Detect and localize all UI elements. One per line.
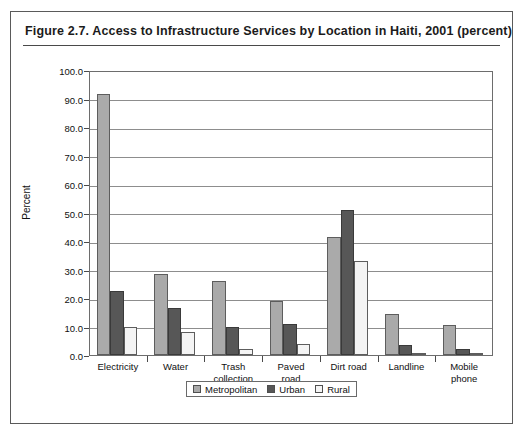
y-axis-tick-label: 30.0 [49,265,83,276]
bar-rural-electricity [124,327,138,356]
figure-frame: Figure 2.7. Access to Infrastructure Ser… [10,11,513,424]
bar-metropolitan-electricity [97,94,111,355]
y-axis-tick-label: 80.0 [49,123,83,134]
gridline [90,271,492,272]
y-axis-tick-mark [84,271,89,272]
legend-swatch-icon [267,385,275,393]
y-axis-tick-label: 60.0 [49,180,83,191]
x-axis-category-label: Mobile phone [427,361,501,385]
bar-metropolitan-trash-collection [212,281,226,355]
y-axis-tick-mark [84,328,89,329]
bar-metropolitan-water [154,274,168,355]
y-axis-tick-label: 90.0 [49,94,83,105]
legend-label: Metropolitan [205,384,257,395]
bar-urban-electricity [110,291,124,355]
bar-metropolitan-landline [385,314,399,355]
y-axis-tick-mark [84,157,89,158]
bar-urban-dirt-road [341,210,355,355]
y-axis-tick-label: 100.0 [49,66,83,77]
y-axis-tick-mark [84,185,89,186]
legend-label: Rural [327,384,350,395]
bar-rural-paved-road [297,344,311,355]
bar-metropolitan-paved-road [270,301,284,355]
plot-area [89,71,493,356]
gridline [90,129,492,130]
y-axis-tick-label: 10.0 [49,322,83,333]
legend-swatch-icon [193,385,201,393]
gridline [90,243,492,244]
y-axis-tick-mark [84,356,89,357]
bar-rural-trash-collection [239,349,253,355]
gridline [90,157,492,158]
legend-swatch-icon [315,385,323,393]
y-axis-tick-label: 0.0 [49,351,83,362]
legend-item-rural[interactable]: Rural [315,384,350,395]
bar-urban-water [168,308,182,355]
y-axis-tick-mark [84,71,89,72]
bar-rural-dirt-road [354,261,368,355]
legend-item-metropolitan[interactable]: Metropolitan [193,384,257,395]
bar-metropolitan-mobile-phone [443,325,457,355]
y-axis-tick-label: 70.0 [49,151,83,162]
bar-chart: Percent 100.090.080.070.060.050.040.030.… [11,12,514,425]
y-axis-tick-mark [84,128,89,129]
bar-rural-water [181,332,195,355]
y-axis-tick-mark [84,214,89,215]
legend-label: Urban [279,384,305,395]
gridline [90,186,492,187]
y-axis-tick-label: 50.0 [49,208,83,219]
chart-legend: MetropolitanUrbanRural [186,381,357,397]
gridline [90,214,492,215]
legend-item-urban[interactable]: Urban [267,384,305,395]
y-axis-tick-label: 20.0 [49,294,83,305]
y-axis-tick-mark [84,100,89,101]
gridline [90,100,492,101]
bar-rural-landline [412,353,426,355]
bar-metropolitan-dirt-road [327,237,341,355]
bar-rural-mobile-phone [470,353,484,355]
bar-urban-trash-collection [226,327,240,356]
gridline [90,300,492,301]
y-axis-tick-mark [84,299,89,300]
y-axis-title: Percent [21,185,32,219]
bar-urban-landline [399,345,413,355]
bar-urban-paved-road [283,324,297,355]
y-axis-tick-mark [84,242,89,243]
bar-urban-mobile-phone [456,349,470,355]
y-axis-tick-label: 40.0 [49,237,83,248]
